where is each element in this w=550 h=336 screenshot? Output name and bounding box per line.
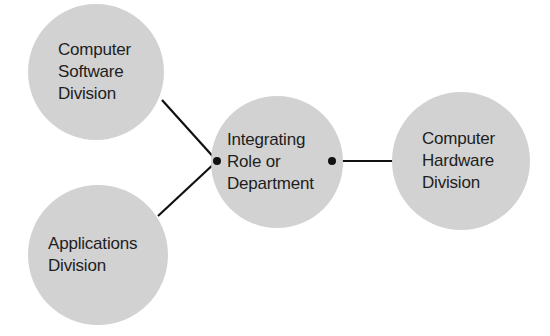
node-computer-hardware-division: Computer Hardware Division xyxy=(392,92,530,230)
node-label: Computer Software Division xyxy=(58,39,131,105)
edge-software-to-integrating xyxy=(162,100,217,161)
node-computer-software-division: Computer Software Division xyxy=(28,4,164,140)
node-label: Applications Division xyxy=(48,233,137,277)
diagram-canvas: Computer Software Division Applications … xyxy=(0,0,550,336)
node-integrating-role-or-department: Integrating Role or Department xyxy=(211,96,343,228)
node-label: Computer Hardware Division xyxy=(422,128,495,194)
node-applications-division: Applications Division xyxy=(28,185,168,325)
node-label: Integrating Role or Department xyxy=(227,129,314,195)
edge-applications-to-integrating xyxy=(158,161,217,216)
